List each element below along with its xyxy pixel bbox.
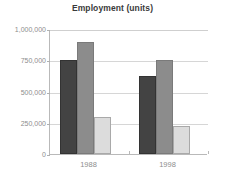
bar-1998-series-1 — [139, 76, 156, 154]
y-axis-tick-label: 750,000 — [21, 57, 46, 64]
y-axis-tick-label: 1,000,000 — [15, 26, 46, 33]
y-axis-tick-label: 0 — [42, 151, 46, 158]
y-axis-tick-mark — [47, 93, 50, 94]
y-axis-tick-mark — [47, 155, 50, 156]
employment-bar-chart: Employment (units) 0250,000500,000750,00… — [0, 0, 225, 183]
x-axis-tick-label-1988: 1988 — [49, 161, 128, 169]
x-axis-tick-label-1998: 1998 — [128, 161, 207, 169]
y-axis-tick-mark — [47, 124, 50, 125]
bar-1988-series-3 — [94, 117, 111, 155]
y-axis-tick-label: 500,000 — [21, 89, 46, 96]
bar-1988-series-1 — [60, 60, 77, 154]
y-axis-tick-mark — [47, 30, 50, 31]
gridline — [50, 30, 208, 31]
y-axis-tick-mark — [47, 61, 50, 62]
bar-1998-series-2 — [156, 60, 173, 154]
chart-title: Employment (units) — [0, 3, 225, 13]
plot-area — [49, 30, 207, 155]
x-axis-group-separator — [129, 151, 130, 154]
y-axis-tick-label: 250,000 — [21, 120, 46, 127]
x-axis-end-tick — [208, 151, 209, 154]
bar-1988-series-2 — [77, 42, 94, 155]
bar-1998-series-3 — [173, 126, 190, 154]
